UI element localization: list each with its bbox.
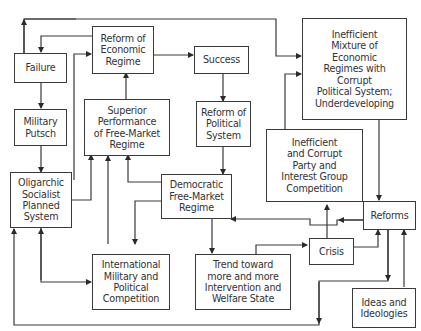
node-trend-toward-intervention: Trend toward more and more Intervention … — [195, 254, 291, 310]
flow-diagram: Failure Military Putsch Oligarchic Socia… — [0, 0, 421, 331]
node-reform-of-economic-regime: Reform of Economic Regime — [92, 26, 154, 74]
node-democratic-free-market-regime: Democratic Free-Market Regime — [161, 174, 232, 219]
node-international-competition: International Military and Political Com… — [92, 254, 170, 310]
node-superior-performance: Superior Performance of Free-Market Regi… — [84, 99, 170, 156]
node-success: Success — [194, 46, 249, 74]
node-military-putsch: Military Putsch — [14, 109, 67, 146]
node-ideas-and-ideologies: Ideas and Ideologies — [352, 288, 416, 328]
node-crisis: Crisis — [309, 238, 354, 265]
node-reform-of-political-system: Reform of Political System — [196, 101, 251, 147]
node-inefficient-mixture: Inefficient Mixture of Economic Regimes … — [302, 18, 407, 120]
node-reforms: Reforms — [363, 201, 416, 230]
node-failure: Failure — [14, 53, 67, 83]
node-inefficient-corrupt-party: Inefficient and Corrupt Party and Intere… — [266, 129, 363, 202]
node-oligarchic-socialist-planned-system: Oligarchic Socialist Planned System — [10, 172, 72, 228]
